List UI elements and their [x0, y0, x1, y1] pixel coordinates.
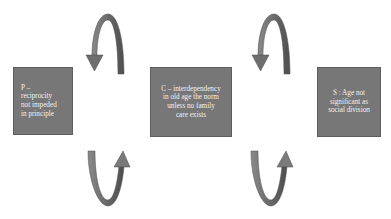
node-c-line-1: C – interdependency — [156, 85, 226, 94]
node-p-line-2: reciprocity — [21, 92, 67, 101]
node-c-line-2: in old age the norm — [156, 93, 226, 102]
node-s-line-1: S : Age not — [323, 89, 375, 98]
node-s-age-not-significant: S : Age not significant as social divisi… — [317, 67, 381, 137]
curved-arrow-bottom-left-icon — [88, 151, 130, 206]
curved-arrow-top-left-icon — [86, 14, 124, 74]
node-s-line-2: significant as — [323, 98, 375, 107]
node-p-line-1: P – — [21, 84, 67, 93]
node-c-line-3: unless no family — [156, 102, 226, 111]
curved-arrow-top-right-icon — [252, 14, 290, 74]
node-c-interdependency: C – interdependency in old age the norm … — [150, 67, 232, 137]
curved-arrow-bottom-right-icon — [251, 151, 293, 206]
node-c-line-4: care exists — [156, 111, 226, 120]
node-s-line-3: social division — [323, 106, 375, 115]
node-p-line-3: not impeded — [21, 101, 67, 110]
node-p-line-4: in principle — [21, 110, 67, 119]
node-p-reciprocity: P – reciprocity not impeded in principle — [13, 67, 73, 135]
